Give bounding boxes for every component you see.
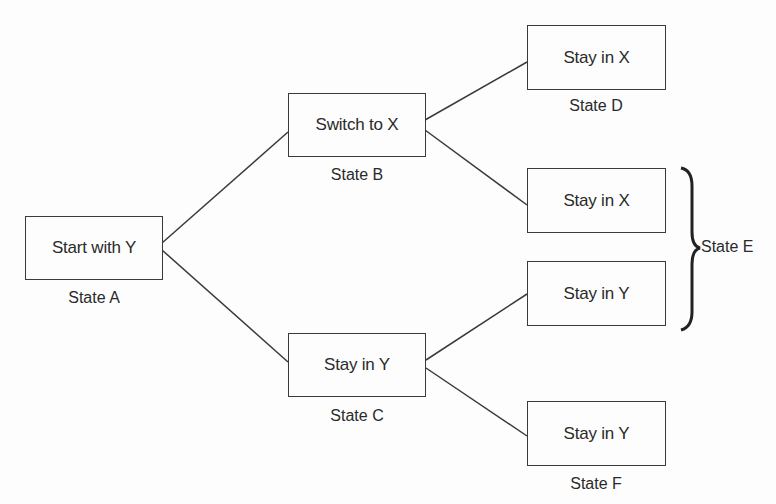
edge-c-f bbox=[426, 368, 527, 436]
edge-b-d bbox=[425, 62, 527, 120]
edge-b-e1 bbox=[425, 130, 527, 205]
node-text: Stay in X bbox=[563, 191, 629, 211]
node-state-f: Stay in Y bbox=[527, 401, 666, 466]
node-state-d: Stay in X bbox=[527, 25, 666, 90]
caption-state-c: State C bbox=[330, 407, 383, 425]
node-text: Stay in Y bbox=[564, 424, 630, 444]
edge-a-b bbox=[162, 132, 288, 243]
node-state-e-x: Stay in X bbox=[527, 168, 666, 233]
caption-state-a: State A bbox=[68, 289, 120, 307]
node-state-b: Switch to X bbox=[288, 93, 426, 157]
caption-state-e: State E bbox=[701, 238, 753, 256]
node-text: Stay in Y bbox=[324, 355, 390, 375]
node-text: Start with Y bbox=[52, 238, 136, 258]
node-state-a: Start with Y bbox=[25, 216, 163, 280]
edge-a-c bbox=[162, 250, 288, 362]
node-state-c: Stay in Y bbox=[288, 333, 426, 397]
node-state-e-y: Stay in Y bbox=[527, 261, 666, 326]
caption-state-d: State D bbox=[569, 97, 622, 115]
brace-state-e bbox=[681, 168, 700, 330]
node-text: Stay in X bbox=[563, 48, 629, 68]
edge-c-e2 bbox=[426, 294, 527, 360]
caption-state-b: State B bbox=[331, 166, 383, 184]
node-text: Stay in Y bbox=[564, 284, 630, 304]
caption-state-f: State F bbox=[570, 475, 622, 493]
node-text: Switch to X bbox=[316, 115, 399, 135]
